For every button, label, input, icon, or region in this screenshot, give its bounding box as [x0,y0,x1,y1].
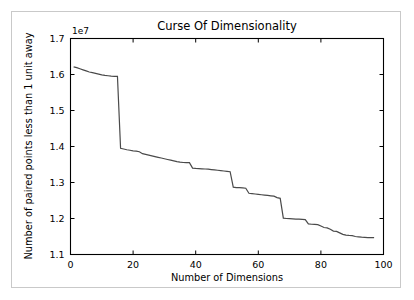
x-tick-label: 20 [127,259,139,270]
y-axis-tick-labels: 1.11.21.31.41.51.61.7 [49,33,64,260]
x-tick-label: 0 [67,259,73,270]
y-axis-tickmarks [71,39,384,255]
y-tick-label: 1.2 [49,213,64,224]
y-tick-label: 1.3 [49,177,64,188]
x-tick-label: 100 [374,259,392,270]
data-series-line [74,67,374,238]
y-tick-label: 1.7 [49,33,64,44]
chart-plot-area: Curse Of Dimensionality 1e7 020406080100… [0,0,414,300]
x-tick-label: 40 [190,259,202,270]
y-axis-offset-text: 1e7 [72,26,89,36]
x-tick-label: 60 [252,259,264,270]
x-axis-tickmarks [71,39,384,255]
y-tick-label: 1.1 [49,249,64,260]
axes-frame [71,39,384,255]
x-axis-tick-labels: 020406080100 [67,259,392,270]
y-tick-label: 1.4 [49,141,64,152]
y-axis-title: Number of paired points less than 1 unit… [23,32,34,259]
x-axis-title: Number of Dimensions [171,272,283,283]
x-tick-label: 80 [315,259,327,270]
y-tick-label: 1.6 [49,69,64,80]
y-tick-label: 1.5 [49,105,64,116]
chart-svg: Curse Of Dimensionality 1e7 020406080100… [0,0,414,300]
chart-title: Curse Of Dimensionality [157,19,297,33]
